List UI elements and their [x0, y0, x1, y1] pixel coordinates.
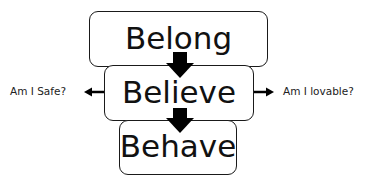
left-arrow-icon	[84, 88, 104, 97]
down-arrow-icon	[166, 52, 194, 78]
down-arrow-icon	[166, 108, 194, 133]
right-arrow-icon	[254, 88, 274, 97]
arrows-layer	[0, 0, 366, 185]
